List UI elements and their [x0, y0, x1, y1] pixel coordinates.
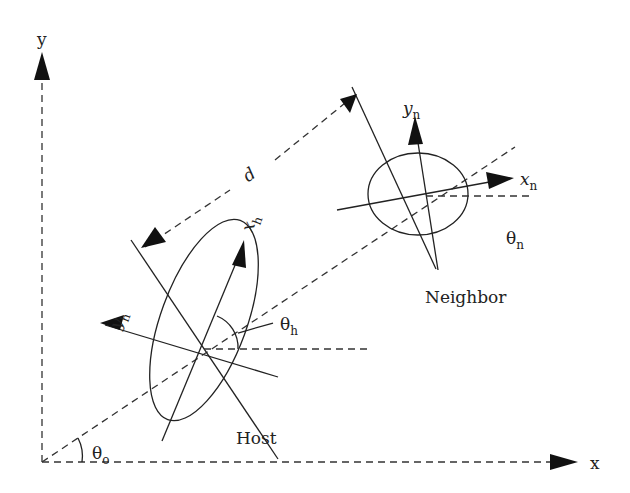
svg-text:yn: yn: [402, 98, 421, 122]
distance-label: d: [239, 163, 259, 186]
svg-text:xn: xn: [520, 169, 538, 193]
svg-text:θh: θh: [280, 314, 298, 338]
svg-text:xh: xh: [237, 211, 266, 236]
neighbor-y-subscript: n: [413, 108, 421, 122]
neighbor-x-subscript: n: [530, 179, 538, 193]
host-y-axis-label-group: yh: [105, 308, 134, 334]
host-angle-arc: [217, 316, 238, 349]
coordinate-diagram: y x θo d θh xh yh Host: [0, 0, 630, 493]
svg-text:θn: θn: [506, 228, 524, 252]
svg-text:yh: yh: [105, 308, 134, 334]
origin-angle-subscript: o: [102, 453, 109, 467]
global-axes: [34, 52, 578, 470]
distance-arrow-left-icon: [141, 227, 166, 248]
distance-arrow-right-icon: [340, 94, 357, 113]
neighbor-x-axis-arrow-icon: [486, 172, 514, 189]
host-angle-subscript: h: [290, 324, 298, 338]
neighbor-ellipse: [368, 153, 468, 235]
svg-text:θo: θo: [92, 443, 109, 467]
host-name: Host: [236, 428, 277, 448]
x-axis-arrow-icon: [550, 454, 578, 470]
origin-angle-label: θ: [92, 443, 102, 463]
distance-line-2: [275, 95, 355, 160]
y-axis-arrow-icon: [34, 52, 50, 80]
neighbor-angle-label: θ: [506, 228, 516, 248]
host-x-axis: [162, 246, 243, 441]
host-x-axis-arrow-icon: [232, 240, 246, 268]
host-angle-label: θ: [280, 314, 290, 334]
host: [100, 206, 370, 441]
y-axis-label: y: [36, 29, 47, 49]
neighbor-x-axis: [337, 181, 495, 210]
distance-indicator: [131, 87, 436, 459]
host-x-axis-label-group: xh: [237, 211, 266, 236]
neighbor-x-label: x: [520, 169, 530, 189]
neighbor-angle-subscript: n: [516, 238, 524, 252]
neighbor-y-label: y: [402, 98, 413, 118]
neighbor-name: Neighbor: [425, 287, 507, 307]
origin-angle-arc: [78, 438, 82, 462]
x-axis-label: x: [590, 453, 600, 473]
neighbor: [337, 116, 532, 270]
